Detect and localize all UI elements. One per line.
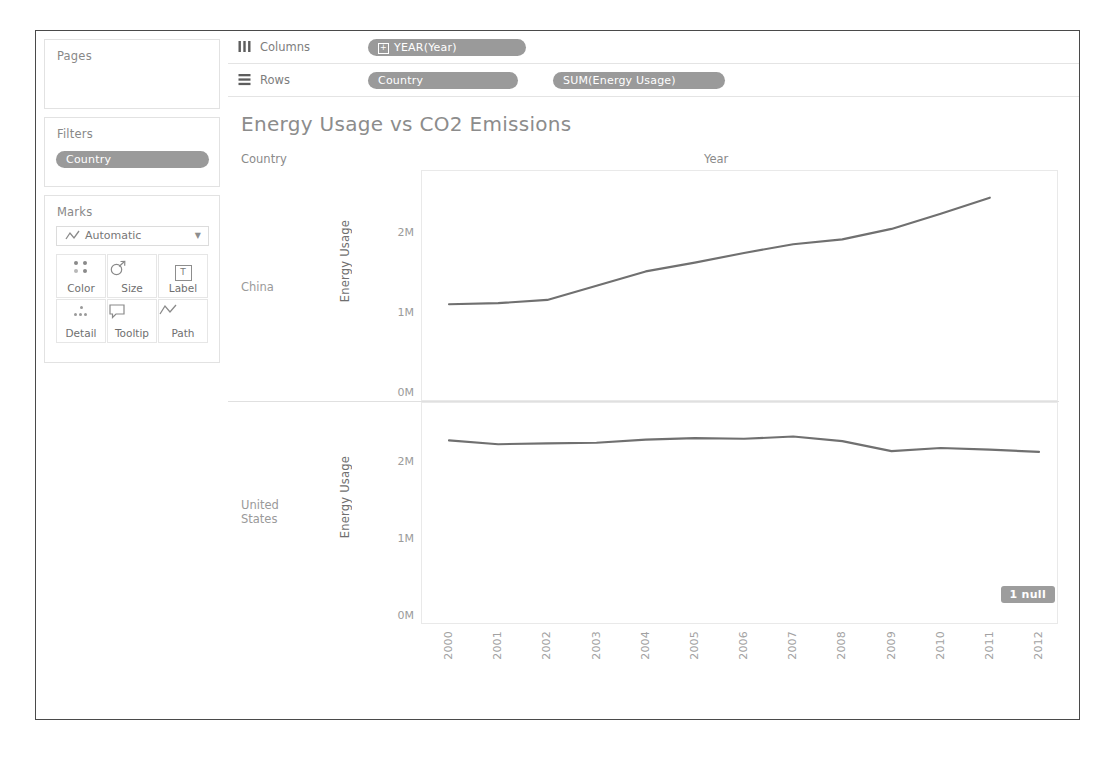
columns-icon — [238, 40, 251, 53]
y-tick-label: 2M — [380, 226, 414, 239]
x-tick-label-2004[interactable]: 2004 — [639, 631, 652, 660]
tooltip-icon — [108, 303, 156, 327]
x-tick-label-2001[interactable]: 2001 — [491, 631, 504, 660]
marks-detail-button[interactable]: Detail — [56, 299, 106, 343]
rows-shelf[interactable]: Rows Country SUM(Energy Usage) — [228, 64, 1079, 97]
pill-year-year[interactable]: +YEAR(Year) — [368, 39, 526, 56]
row-header-china[interactable]: China — [241, 280, 274, 294]
y-tick-label: 1M — [380, 532, 414, 545]
plus-box-icon[interactable]: + — [378, 43, 389, 54]
x-tick-label-2005[interactable]: 2005 — [688, 631, 701, 660]
axis-title-energy-usage-us: Energy Usage — [338, 456, 352, 538]
pages-card[interactable]: Pages — [44, 39, 220, 109]
rows-shelf-label: Rows — [260, 73, 290, 87]
worksheet-pane: Columns +YEAR(Year) Rows Country SUM(Ene… — [228, 31, 1079, 719]
row-field-header: Country — [241, 152, 287, 166]
columns-shelf-label: Columns — [260, 40, 310, 54]
page-title: Energy Usage vs CO2 Emissions — [241, 112, 572, 136]
column-field-header: Year — [704, 152, 728, 166]
plot-panel-united-states — [421, 402, 1058, 624]
y-tick-label: 1M — [380, 306, 414, 319]
axis-title-energy-usage-china: Energy Usage — [338, 220, 352, 302]
path-icon — [159, 303, 207, 327]
marks-color-button[interactable]: Color — [56, 254, 106, 298]
marks-size-button[interactable]: Size — [107, 254, 157, 298]
chevron-down-icon[interactable]: ▼ — [195, 227, 201, 245]
visualization-area: Energy Usage vs CO2 Emissions Country Ye… — [228, 98, 1079, 719]
marks-card: Marks Automatic ▼ Color Size — [44, 195, 220, 363]
line-mark-icon — [65, 229, 80, 243]
marks-tooltip-label: Tooltip — [108, 327, 156, 339]
pill-country[interactable]: Country — [368, 72, 518, 89]
marks-path-label: Path — [159, 327, 207, 339]
color-icon — [57, 258, 105, 282]
plot-panel-china — [421, 170, 1058, 401]
y-tick-label: 0M — [380, 386, 414, 399]
filter-pill-country[interactable]: Country — [56, 151, 209, 168]
marks-color-label: Color — [57, 282, 105, 294]
x-tick-label-2003[interactable]: 2003 — [590, 631, 603, 660]
marks-path-button[interactable]: Path — [158, 299, 208, 343]
pill-year-label: YEAR(Year) — [394, 41, 457, 54]
filters-card[interactable]: Filters Country — [44, 117, 220, 187]
null-badge[interactable]: 1 null — [1001, 586, 1056, 603]
x-tick-label-2010[interactable]: 2010 — [934, 631, 947, 660]
tableau-worksheet-window: Pages Filters Country Marks Automatic ▼ … — [35, 30, 1080, 720]
x-tick-label-2006[interactable]: 2006 — [737, 631, 750, 660]
x-tick-label-2008[interactable]: 2008 — [835, 631, 848, 660]
y-tick-label: 0M — [380, 609, 414, 622]
pages-card-title: Pages — [57, 49, 92, 63]
marks-detail-label: Detail — [57, 327, 105, 339]
row-header-united-states[interactable]: UnitedStates — [241, 498, 279, 526]
marks-tooltip-button[interactable]: Tooltip — [107, 299, 157, 343]
x-tick-label-2011[interactable]: 2011 — [983, 631, 996, 660]
detail-icon — [57, 303, 105, 327]
x-tick-label-2012[interactable]: 2012 — [1032, 631, 1045, 660]
marks-card-title: Marks — [57, 205, 92, 219]
marks-label-label: Label — [159, 282, 207, 294]
x-tick-label-2000[interactable]: 2000 — [442, 631, 455, 660]
left-shelf-pane: Pages Filters Country Marks Automatic ▼ … — [36, 31, 228, 719]
marks-type-label: Automatic — [85, 227, 141, 245]
rows-icon — [238, 73, 251, 86]
y-tick-label: 2M — [380, 455, 414, 468]
size-icon — [108, 258, 156, 282]
pill-sum-energy-usage[interactable]: SUM(Energy Usage) — [553, 72, 725, 89]
line-chart-united-states — [422, 403, 1057, 623]
filters-card-title: Filters — [57, 127, 93, 141]
x-tick-label-2009[interactable]: 2009 — [885, 631, 898, 660]
marks-label-button[interactable]: T Label — [158, 254, 208, 298]
marks-type-dropdown[interactable]: Automatic ▼ — [56, 226, 209, 246]
columns-shelf[interactable]: Columns +YEAR(Year) — [228, 31, 1079, 64]
label-icon: T — [159, 258, 207, 282]
x-tick-label-2002[interactable]: 2002 — [540, 631, 553, 660]
marks-size-label: Size — [108, 282, 156, 294]
x-tick-label-2007[interactable]: 2007 — [786, 631, 799, 660]
line-chart-china — [422, 171, 1057, 400]
